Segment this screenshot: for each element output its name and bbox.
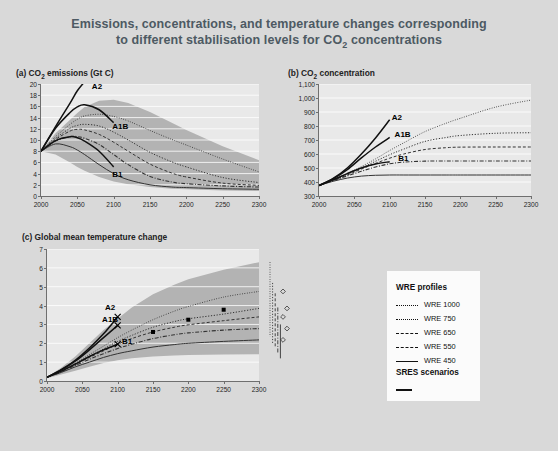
y-tick-label: 0 <box>21 378 43 385</box>
y-tick-mark <box>316 126 319 127</box>
curve-label-a1b: A1B <box>112 122 128 131</box>
y-tick-label: 8 <box>15 148 37 155</box>
y-tick-mark <box>316 112 319 113</box>
line-style-swatch-icon <box>396 302 418 308</box>
curve-label-b1: B1 <box>122 337 132 346</box>
x-tick-mark <box>224 381 225 384</box>
y-tick-mark <box>316 84 319 85</box>
y-tick-label: 1,000 <box>293 95 315 102</box>
y-tick-mark <box>316 154 319 155</box>
x-tick-label: 2300 <box>252 201 267 208</box>
x-tick-label: 2250 <box>488 201 503 208</box>
legend-item-wre-450: WRE 450 <box>396 355 456 366</box>
legend-item-wre-1000: WRE 1000 <box>396 299 460 310</box>
y-tick-mark <box>38 140 41 141</box>
x-tick-mark <box>47 381 48 384</box>
x-tick-mark <box>77 196 78 199</box>
panel-c-svg <box>47 249 259 381</box>
x-tick-mark <box>354 196 355 199</box>
y-tick-label: 1,100 <box>293 81 315 88</box>
y-tick-label: 2 <box>21 340 43 347</box>
x-tick-mark <box>496 196 497 199</box>
x-tick-label: 2150 <box>143 201 158 208</box>
legend-item-sres <box>396 383 424 394</box>
x-tick-label: 2150 <box>418 201 433 208</box>
curve-label-b1: B1 <box>112 170 122 179</box>
range-marker-diamond <box>285 326 290 331</box>
y-tick-mark <box>44 249 47 250</box>
y-tick-mark <box>38 129 41 130</box>
y-tick-label: 4 <box>21 302 43 309</box>
x-tick-label: 2100 <box>110 386 125 393</box>
x-tick-mark <box>82 381 83 384</box>
panel-a-title-post: emissions (Gt C) <box>45 68 114 78</box>
y-tick-mark <box>38 185 41 186</box>
x-tick-mark <box>153 381 154 384</box>
y-tick-label: 0 <box>15 193 37 200</box>
x-tick-label: 2000 <box>40 386 55 393</box>
line-style-swatch-icon <box>396 358 418 364</box>
x-tick-label: 2200 <box>179 201 194 208</box>
y-tick-mark <box>38 106 41 107</box>
legend-box: WRE profiles WRE 1000WRE 750WRE 650WRE 5… <box>387 271 480 401</box>
legend-item-wre-550: WRE 550 <box>396 341 456 352</box>
line-style-swatch-icon <box>396 330 418 336</box>
x-tick-label: 2100 <box>382 201 397 208</box>
x-tick-mark <box>114 196 115 199</box>
y-tick-mark <box>44 343 47 344</box>
y-tick-label: 700 <box>293 137 315 144</box>
y-tick-mark <box>44 324 47 325</box>
x-tick-label: 2000 <box>312 201 327 208</box>
x-tick-mark <box>223 196 224 199</box>
y-tick-label: 20 <box>15 81 37 88</box>
y-tick-label: 4 <box>15 170 37 177</box>
figure-title: Emissions, concentrations, and temperatu… <box>0 16 558 53</box>
y-tick-mark <box>316 182 319 183</box>
data-point-marker <box>222 308 226 312</box>
curve-label-a1b: A1B <box>102 315 118 324</box>
line-style-swatch-icon <box>396 316 418 322</box>
panel-a-title: (a) CO2 emissions (Gt C) <box>16 68 114 80</box>
x-tick-mark <box>531 196 532 199</box>
panel-b-title: (b) CO2 concentration <box>288 68 375 80</box>
panel-c-title-pre: (c) Global mean temperature change <box>22 232 167 242</box>
y-tick-label: 500 <box>293 165 315 172</box>
uncertainty-band <box>41 100 259 191</box>
x-tick-mark <box>425 196 426 199</box>
x-tick-mark <box>460 196 461 199</box>
y-tick-mark <box>44 306 47 307</box>
legend-wre-heading: WRE profiles <box>396 283 447 292</box>
x-tick-label: 2200 <box>181 386 196 393</box>
x-tick-label: 2300 <box>524 201 539 208</box>
x-tick-mark <box>259 381 260 384</box>
y-tick-mark <box>316 168 319 169</box>
y-tick-label: 18 <box>15 92 37 99</box>
x-tick-mark <box>186 196 187 199</box>
x-tick-mark <box>188 381 189 384</box>
sres-line-swatch-icon <box>396 386 418 392</box>
legend-label: WRE 1000 <box>424 300 460 309</box>
legend-item-wre-750: WRE 750 <box>396 313 456 324</box>
side-uncertainty-bars <box>267 249 301 381</box>
x-tick-label: 2050 <box>75 386 90 393</box>
figure-title-line2-pre: to different stabilisation levels for CO <box>116 33 342 47</box>
series-line-wre-450 <box>319 175 531 186</box>
range-marker-diamond <box>281 289 286 294</box>
legend-label: WRE 750 <box>424 314 456 323</box>
y-tick-mark <box>316 140 319 141</box>
panel-c-plot-area: 012345672000205021002150220022502300A2A1… <box>46 249 259 382</box>
x-tick-label: 2000 <box>34 201 49 208</box>
y-tick-label: 300 <box>293 193 315 200</box>
x-tick-mark <box>118 381 119 384</box>
x-tick-label: 2250 <box>216 386 231 393</box>
y-tick-label: 800 <box>293 123 315 130</box>
legend-label: WRE 550 <box>424 342 456 351</box>
y-tick-mark <box>44 287 47 288</box>
y-tick-mark <box>316 98 319 99</box>
legend-label: WRE 650 <box>424 328 456 337</box>
range-marker-diamond <box>281 314 286 319</box>
panel-c-title: (c) Global mean temperature change <box>22 232 167 244</box>
line-style-swatch-icon <box>396 344 418 350</box>
x-tick-label: 2050 <box>347 201 362 208</box>
curve-label-a2: A2 <box>392 113 402 122</box>
